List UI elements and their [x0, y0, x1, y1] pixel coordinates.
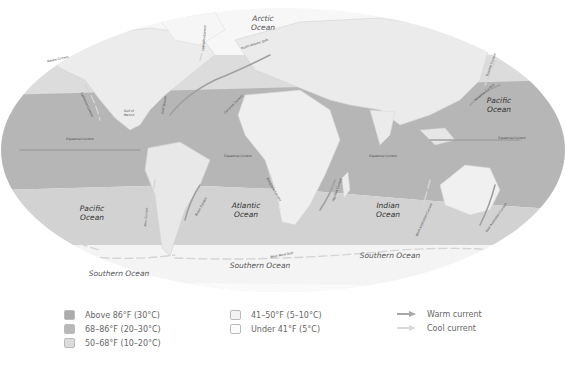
svg-text:PacificOcean: PacificOcean	[487, 96, 512, 114]
legend-label: 41–50°F (5–10°C)	[251, 311, 322, 320]
svg-text:AtlanticOcean: AtlanticOcean	[231, 201, 262, 219]
legend-label: Cool current	[427, 324, 476, 333]
svg-text:Gulf ofMexico: Gulf ofMexico	[124, 109, 135, 117]
svg-text:ArcticOcean: ArcticOcean	[251, 14, 275, 32]
ocean-label-southern-west: Southern Ocean	[89, 269, 150, 278]
world-ocean-temperature-map: ArcticOcean PacificOcean PacificOcean At…	[0, 0, 565, 295]
ocean-label-arctic: Arctic	[251, 14, 274, 23]
svg-text:PacificOcean: PacificOcean	[80, 204, 105, 222]
legend-label: Warm current	[427, 310, 482, 319]
map-legend: Above 86°F (30°C) 68–86°F (20–30°C) 50–6…	[0, 308, 565, 368]
legend-item-warm-current: Warm current	[397, 308, 482, 320]
swatch-50-68f	[64, 338, 75, 348]
current-label-equatorial-1: Equatorial Current	[66, 137, 94, 141]
cool-current-arrow-icon	[397, 325, 417, 331]
ocean-label-southern-center: Southern Ocean	[230, 261, 291, 270]
legend-label: 68–86°F (20–30°C)	[85, 325, 161, 334]
legend-item-under-41f: Under 41°F (5°C)	[230, 323, 320, 335]
swatch-under-41f	[230, 324, 241, 334]
legend-label: 50–68°F (10–20°C)	[85, 339, 161, 348]
ocean-label-pacific-south: Pacific	[80, 204, 105, 213]
current-label-equatorial-3: Equatorial Current	[369, 154, 397, 158]
current-label-equatorial-2: Equatorial Current	[224, 154, 252, 158]
legend-label: Above 86°F (30°C)	[85, 311, 160, 320]
legend-item-41-50f: 41–50°F (5–10°C)	[230, 309, 322, 321]
ocean-label-indian: Indian	[376, 201, 399, 210]
ocean-label-pacific-east: Pacific	[487, 96, 512, 105]
warm-current-arrow-icon	[397, 311, 417, 317]
legend-item-above-86f: Above 86°F (30°C)	[64, 309, 160, 321]
swatch-68-86f	[64, 324, 75, 334]
current-label-equatorial-4: Equatorial Current	[498, 136, 526, 140]
legend-item-cool-current: Cool current	[397, 322, 476, 334]
swatch-above-86f	[64, 310, 75, 320]
legend-label: Under 41°F (5°C)	[251, 325, 320, 334]
legend-item-50-68f: 50–68°F (10–20°C)	[64, 337, 161, 349]
ocean-label-atlantic: Atlantic	[231, 201, 262, 210]
antarctica	[0, 283, 565, 295]
swatch-41-50f	[230, 310, 241, 320]
ocean-label-southern-east: Southern Ocean	[360, 251, 421, 260]
legend-item-68-86f: 68–86°F (20–30°C)	[64, 323, 161, 335]
svg-text:IndianOcean: IndianOcean	[376, 201, 400, 219]
